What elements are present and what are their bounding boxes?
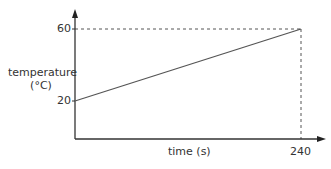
x-axis-arrow-icon [317, 136, 326, 142]
y-tick-label-20: 20 [57, 94, 71, 107]
y-axis-label-line1: temperature [8, 66, 74, 79]
y-axis-label: temperature (°C) [8, 66, 74, 92]
y-tick-label-60: 60 [57, 22, 71, 35]
temperature-series-line [75, 29, 301, 101]
x-tick-label-240: 240 [290, 145, 311, 158]
x-axis-label: time (s) [168, 145, 211, 158]
line-chart: temperature (°C) 60 20 time (s) 240 [0, 0, 331, 169]
y-axis-label-line2: (°C) [8, 79, 74, 92]
y-axis-arrow-icon [72, 9, 78, 18]
